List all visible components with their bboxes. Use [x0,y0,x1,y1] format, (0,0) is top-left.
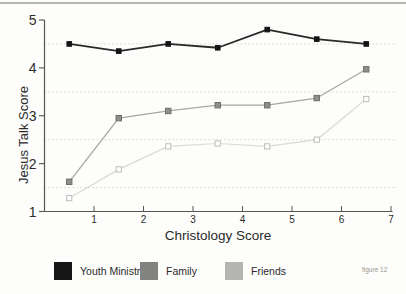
x-tick-label: 1 [91,214,97,225]
marker-family [364,67,369,72]
legend-swatch-family [140,262,158,280]
marker-friends [364,96,369,101]
marker-family [166,108,171,113]
figure-page: 123451234567 Jesus Talk Score Christolog… [0,0,406,294]
marker-youth-ministry [314,37,319,42]
marker-friends [265,144,270,149]
figure-caption: figure 12 [362,266,387,273]
marker-family [116,115,121,120]
marker-youth-ministry [67,42,72,47]
x-tick-label: 2 [141,214,147,225]
marker-friends [166,144,171,149]
y-tick-label: 4 [29,60,37,76]
marker-youth-ministry [116,49,121,54]
legend-label-family: Family [166,265,197,277]
y-axis-title: Jesus Talk Score [16,86,31,184]
marker-youth-ministry [265,27,270,32]
legend-item-youth-ministry: Youth Ministry [54,261,146,280]
x-tick-label: 7 [388,214,394,225]
x-tick-label: 4 [240,214,246,225]
marker-friends [116,167,121,172]
marker-family [265,103,270,108]
legend-swatch-friends [225,262,243,280]
series-family [67,67,369,185]
series-friends [67,96,369,200]
marker-family [67,179,72,184]
line-chart: 123451234567 [0,0,406,252]
x-axis-title: Christology Score [165,228,272,243]
grid-lines [45,44,398,188]
marker-family [314,95,319,100]
axes: 123451234567 [29,12,395,225]
series-youth-ministry [67,27,369,53]
legend-label-friends: Friends [251,265,286,277]
legend-item-friends: Friends [225,261,286,280]
x-tick-label: 6 [339,214,345,225]
legend-swatch-youth-ministry [54,262,72,280]
marker-friends [215,141,220,146]
y-tick-label: 1 [29,204,37,220]
series-line-friends [69,99,366,198]
y-tick-label: 5 [29,12,37,28]
x-tick-label: 5 [289,214,295,225]
marker-youth-ministry [364,42,369,47]
marker-family [215,103,220,108]
marker-youth-ministry [215,45,220,50]
x-tick-label: 3 [190,214,196,225]
marker-friends [67,195,72,200]
legend-item-family: Family [140,261,197,280]
series-line-family [69,69,366,182]
marker-youth-ministry [166,42,171,47]
legend-label-youth-ministry: Youth Ministry [80,265,146,277]
marker-friends [314,137,319,142]
